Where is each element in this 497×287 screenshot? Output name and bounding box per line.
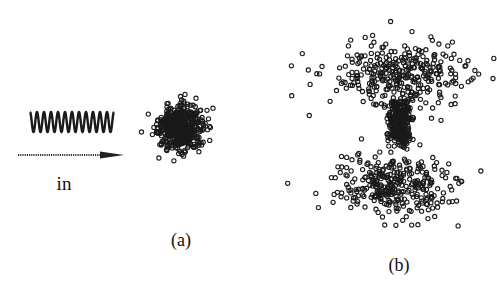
scatter-point-b <box>410 30 414 34</box>
scatter-point-b <box>435 201 439 205</box>
scatter-point-b <box>491 76 495 80</box>
scatter-point-b <box>418 106 422 110</box>
scatter-point-b <box>439 118 443 122</box>
scatter-point-b <box>389 150 393 154</box>
scatter-point-a <box>139 130 143 134</box>
scatter-point-b <box>420 170 424 174</box>
scatter-point-b <box>436 101 440 105</box>
scatter-point-b <box>426 208 430 212</box>
propagation-arrow <box>18 152 124 159</box>
scatter-point-b <box>433 214 437 218</box>
scatter-point-b <box>477 72 481 76</box>
scatter-point-b <box>346 44 350 48</box>
scatter-point-b <box>345 174 349 178</box>
scatter-point-b <box>345 155 349 159</box>
scatter-point-b <box>429 116 433 120</box>
scatter-point-b <box>438 90 442 94</box>
scatter-point-b <box>407 51 411 55</box>
scatter-point-b <box>421 55 425 59</box>
scatter-point-b <box>332 192 336 196</box>
figure-canvas: in (a) (b) <box>0 0 497 287</box>
scatter-point-b <box>458 58 462 62</box>
scatter-point-b <box>314 191 318 195</box>
scatter-point-b <box>398 166 402 170</box>
scatter-point-b <box>380 51 384 55</box>
scatter-point-b <box>445 170 449 174</box>
scatter-point-b <box>416 223 420 227</box>
scatter-point-b <box>441 191 445 195</box>
scatter-point-b <box>401 218 405 222</box>
scatter-point-b <box>300 52 304 56</box>
scatter-point-a <box>205 108 209 112</box>
scatter-point-b <box>320 64 324 68</box>
scatter-point-b <box>492 56 496 60</box>
scatter-point-b <box>473 68 477 72</box>
scatter-panel-a <box>139 92 215 163</box>
scatter-point-b <box>369 58 373 62</box>
scatter-point-b <box>410 223 414 227</box>
scatter-point-b <box>403 44 407 48</box>
panel-label-b: (b) <box>389 255 410 276</box>
scatter-point-a <box>208 138 212 142</box>
scatter-point-b <box>421 86 425 90</box>
scatter-point-b <box>453 94 457 98</box>
scatter-point-b <box>361 168 365 172</box>
scatter-point-a <box>183 92 187 96</box>
scatter-point-b <box>436 76 440 80</box>
scatter-point-b <box>328 99 332 103</box>
incident-label: in <box>57 173 72 194</box>
scatter-point-b <box>439 60 443 64</box>
scatter-point-b <box>360 89 364 93</box>
scatter-point-b <box>387 144 391 148</box>
scatter-point-b <box>424 101 428 105</box>
scatter-point-b <box>347 73 351 77</box>
scatter-point-b <box>308 82 312 86</box>
scatter-point-b <box>418 143 422 147</box>
scatter-point-b <box>436 187 440 191</box>
scatter-point-b <box>345 196 349 200</box>
scatter-point-b <box>359 137 363 141</box>
scatter-point-b <box>452 52 456 56</box>
scatter-point-a <box>172 159 176 163</box>
scatter-point-b <box>345 166 349 170</box>
scatter-point-b <box>449 56 453 60</box>
scatter-point-b <box>349 205 353 209</box>
scatter-point-b <box>380 215 384 219</box>
scatter-point-b <box>361 99 365 103</box>
scatter-point-b <box>338 66 342 70</box>
scatter-point-b <box>459 84 463 88</box>
scatter-point-b <box>374 89 378 93</box>
scatter-point-b <box>404 184 408 188</box>
scatter-point-b <box>349 38 353 42</box>
scatter-point-b <box>363 205 367 209</box>
scatter-point-b <box>420 209 424 213</box>
incident-wave-sinusoid <box>30 112 114 132</box>
scatter-point-b <box>378 150 382 154</box>
scatter-point-b <box>345 54 349 58</box>
scatter-point-b <box>338 170 342 174</box>
scatter-point-b <box>373 155 377 159</box>
scatter-point-b <box>479 169 483 173</box>
scatter-point-b <box>456 224 460 228</box>
scatter-point-b <box>408 177 412 181</box>
scatter-point-b <box>440 174 444 178</box>
scatter-point-b <box>337 76 341 80</box>
scatter-point-b <box>369 165 373 169</box>
scatter-point-b <box>388 172 392 176</box>
scatter-point-b <box>334 88 338 92</box>
scatter-point-b <box>376 210 380 214</box>
scatter-point-b <box>418 97 422 101</box>
scatter-point-b <box>392 144 396 148</box>
scatter-point-b <box>466 59 470 63</box>
scatter-point-b <box>404 215 408 219</box>
scatter-point-b <box>435 161 439 165</box>
scatter-point-b <box>431 206 435 210</box>
scatter-point-b <box>349 169 353 173</box>
scatter-point-b <box>343 64 347 68</box>
scatter-point-b <box>339 154 343 158</box>
scatter-point-b <box>450 40 454 44</box>
scatter-point-b <box>344 86 348 90</box>
scatter-point-b <box>350 76 354 80</box>
arrowhead-icon <box>100 152 124 159</box>
scatter-point-b <box>426 217 430 221</box>
